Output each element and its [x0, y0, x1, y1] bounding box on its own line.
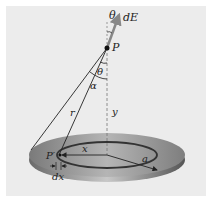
point-P-prime	[59, 154, 62, 157]
label-theta: θ	[97, 66, 103, 77]
charged-disk-diagram: θ dE P θ α r y P′ x a dx	[0, 0, 215, 205]
label-r: r	[70, 107, 76, 118]
label-P: P	[111, 41, 120, 54]
label-a: a	[142, 153, 148, 164]
label-x: x	[82, 143, 88, 154]
label-y: y	[111, 106, 118, 117]
label-dE: dE	[123, 11, 138, 24]
label-P-prime: P′	[45, 150, 56, 161]
label-dx: dx	[52, 171, 64, 182]
point-P	[105, 46, 110, 51]
theta-arc	[100, 62, 107, 63]
label-alpha: α	[90, 80, 97, 91]
label-theta-top: θ	[109, 9, 116, 22]
